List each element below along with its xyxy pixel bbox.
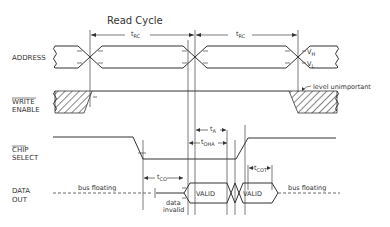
vh-level-label: VH [302,48,315,57]
svg-text:tRC: tRC [236,30,246,39]
svg-text:WRITE: WRITE [12,98,35,106]
svg-text:tOHA: tOHA [201,138,215,147]
write-enable-label: WRITE ENABLE [12,98,40,114]
svg-text:level unimportant: level unimportant [313,83,371,91]
t-rc-dimension-1: tRC [91,30,194,39]
svg-text:ENABLE: ENABLE [12,106,40,114]
level-unimportant-note: level unimportant [302,83,371,91]
svg-text:tCOT: tCOT [254,164,268,173]
svg-text:tCO: tCO [157,173,167,182]
write-enable-waveform [54,91,339,113]
t-a-dimension: tA [196,125,226,134]
svg-text:VL: VL [307,60,314,69]
address-waveform [54,46,339,68]
chip-select-label: CHIP SELECT [12,146,39,162]
vl-level-label: VL [302,60,314,69]
bus-floating-left: bus floating [78,184,116,192]
data-out-label-2: OUT [12,196,28,204]
read-cycle-timing-diagram: Read Cycle ADDRESS WRITE ENABLE CHIP SEL… [0,0,390,227]
svg-text:tA: tA [210,125,217,134]
t-cot-dimension: tCOT [249,164,271,173]
svg-text:VH: VH [307,48,315,57]
diagram-title: Read Cycle [107,15,163,26]
svg-text:SELECT: SELECT [12,154,39,162]
data-out-label-1: DATA [12,187,30,195]
svg-text:CHIP: CHIP [12,146,28,154]
svg-text:tRC: tRC [131,30,141,39]
t-rc-dimension-2: tRC [196,30,297,39]
address-label: ADDRESS [12,54,46,62]
valid-box-1: VALID [196,190,215,198]
data-invalid-label-2: invalid [163,206,185,214]
t-co-dimension: tCO [144,173,183,182]
bus-floating-right: bus floating [288,184,326,192]
chip-select-waveform [53,137,336,159]
valid-box-2: VALID [243,190,262,198]
